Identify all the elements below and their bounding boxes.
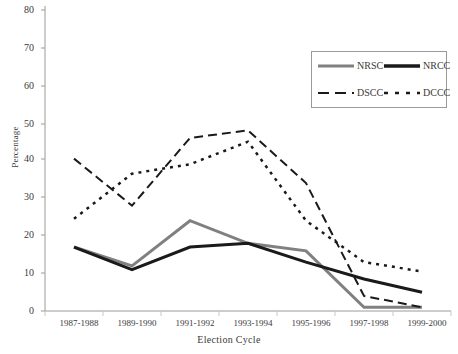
series-line-nrcc [74, 243, 422, 292]
legend-label-dccc: DCCC [423, 87, 450, 98]
y-axis-ticks [41, 10, 45, 311]
legend-entry-nrcc: NRCC [384, 60, 450, 71]
legend-swatch-nrcc [384, 61, 420, 71]
legend-label-nrsc: NRSC [357, 60, 383, 71]
legend-entry-nrsc: NRSC [318, 60, 383, 71]
legend-swatch-nrsc [318, 61, 354, 71]
legend-label-dscc: DSCC [357, 87, 383, 98]
series-layer [74, 130, 422, 307]
legend-label-nrcc: NRCC [423, 60, 450, 71]
series-line-dccc [74, 142, 422, 272]
x-tick-label-6: 1999-2000 [382, 318, 458, 328]
x-axis-ticks [45, 311, 451, 316]
legend-swatch-dccc [384, 88, 420, 98]
legend-entry-dscc: DSCC [318, 87, 383, 98]
line-chart: Percentage 80 70 60 50 40 30 20 10 0 [0, 0, 458, 354]
x-axis-title: Election Cycle [0, 334, 458, 345]
legend-entry-dccc: DCCC [384, 87, 450, 98]
legend-swatch-dscc [318, 88, 354, 98]
legend: NRSC NRCC DSCC DCCC [311, 51, 447, 108]
